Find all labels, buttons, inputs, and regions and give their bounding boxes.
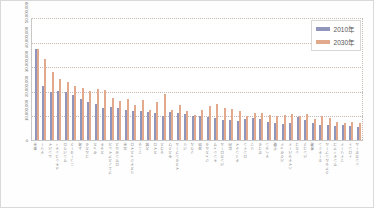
x-tick-label: ソウル xyxy=(190,142,198,206)
y-axis: 50,000,00040,000,00030,000,00020,000,000… xyxy=(1,11,31,146)
bar-group xyxy=(273,18,280,140)
bar-2030 xyxy=(246,116,248,140)
x-tick-label: ニューヨーク xyxy=(70,142,78,206)
x-tick-label: バンガロール xyxy=(220,142,228,206)
bar-2030 xyxy=(156,102,158,140)
chart-legend: 2010年2030年 xyxy=(311,20,361,51)
bar-2030 xyxy=(216,104,218,140)
x-tick-label: テヘラン xyxy=(265,142,273,206)
bar-2030 xyxy=(164,94,166,140)
y-tick-label: 0 xyxy=(26,138,28,143)
x-tick-label: ブエノスアイレス xyxy=(107,142,115,206)
bar-group xyxy=(198,18,205,140)
x-tick-label: カイロ xyxy=(152,142,160,206)
y-tick-label: 50,000,000 xyxy=(24,2,29,23)
x-tick-label: 東京 xyxy=(32,142,40,206)
bar-2030 xyxy=(44,59,46,140)
x-tick-label: ロンドン xyxy=(242,142,250,206)
bar-group xyxy=(138,18,145,140)
bar-2030 xyxy=(74,86,76,140)
x-tick-label: サンパウロ xyxy=(62,142,70,206)
bar-group xyxy=(93,18,100,140)
bar-2030 xyxy=(201,110,203,140)
bar-2030 xyxy=(269,115,271,140)
x-tick-label: ダッカ xyxy=(92,142,100,206)
x-tick-label: マニラ xyxy=(137,142,145,206)
bar-group xyxy=(250,18,257,140)
x-tick-label: 香港 xyxy=(310,142,318,206)
bar-2030 xyxy=(224,108,226,140)
bar-2030 xyxy=(299,116,301,140)
x-tick-label: シカゴ xyxy=(295,142,303,206)
bar-group xyxy=(160,18,167,140)
x-tick-label: パリ xyxy=(182,142,190,206)
bar-group xyxy=(115,18,122,140)
bar-group xyxy=(243,18,250,140)
x-tick-label: チェンナイ xyxy=(235,142,243,206)
bar-2030 xyxy=(329,118,331,140)
bar-2030 xyxy=(314,119,316,140)
legend-item[interactable]: 2030年 xyxy=(316,37,355,47)
bar-2030 xyxy=(359,123,361,140)
x-tick-label: ホーチミン xyxy=(317,142,325,206)
bar-group xyxy=(153,18,160,140)
x-tick-label: シンガポール xyxy=(355,142,363,206)
bar-group xyxy=(123,18,130,140)
chart-container: 50,000,00040,000,00030,000,00020,000,000… xyxy=(0,0,374,208)
bar-group xyxy=(228,18,235,140)
bar-group xyxy=(85,18,92,140)
x-axis-labels: 東京デリームンバイメキシコシティサンパウロニューヨーク上海コルカタダッカカラチブ… xyxy=(31,142,363,206)
bar-group xyxy=(63,18,70,140)
x-tick-label: ラゴス xyxy=(160,142,168,206)
bar-2030 xyxy=(142,100,144,140)
bar-2030 xyxy=(119,101,121,140)
bar-group xyxy=(100,18,107,140)
x-tick-label: メキシコシティ xyxy=(55,142,63,206)
bar-2030 xyxy=(231,109,233,140)
x-tick-label: 上海 xyxy=(77,142,85,206)
x-tick-label: ムンバイ xyxy=(47,142,55,206)
bar-group xyxy=(48,18,55,140)
bar-group xyxy=(190,18,197,140)
x-tick-label: リマ xyxy=(250,142,258,206)
x-tick-label: バグダッド xyxy=(280,142,288,206)
x-tick-label: モスクワ xyxy=(167,142,175,206)
bar-2030 xyxy=(321,116,323,140)
x-tick-label: デリー xyxy=(40,142,48,206)
bar-2030 xyxy=(179,105,181,140)
bar-2030 xyxy=(276,116,278,140)
bar-2030 xyxy=(52,72,54,140)
x-tick-label: 広州 xyxy=(227,142,235,206)
x-tick-label: トロント xyxy=(347,142,355,206)
x-tick-label: ジャカルタ xyxy=(205,142,213,206)
bar-2030 xyxy=(89,91,91,140)
x-tick-label: バンコク xyxy=(302,142,310,206)
bar-2030 xyxy=(59,79,61,140)
legend-item[interactable]: 2010年 xyxy=(316,24,355,34)
bar-2030 xyxy=(239,111,241,140)
bar-group xyxy=(168,18,175,140)
y-tick-label: 20,000,000 xyxy=(24,76,29,97)
x-tick-label: コルカタ xyxy=(85,142,93,206)
legend-label: 2030年 xyxy=(334,37,355,47)
bar-group xyxy=(265,18,272,140)
x-tick-label: 深圳 xyxy=(197,142,205,206)
x-tick-label: 大阪 xyxy=(145,142,153,206)
bar-group xyxy=(175,18,182,140)
bar-group xyxy=(33,18,40,140)
bar-2030 xyxy=(209,106,211,140)
x-tick-label: サンティアゴ xyxy=(332,142,340,206)
bar-2030 xyxy=(112,98,114,140)
legend-swatch xyxy=(316,27,330,31)
legend-label: 2010年 xyxy=(334,24,355,34)
x-tick-label: キンシャサ xyxy=(212,142,220,206)
bar-2030 xyxy=(37,49,39,141)
bar-group xyxy=(40,18,47,140)
bar-group xyxy=(205,18,212,140)
bar-group xyxy=(130,18,137,140)
bar-2030 xyxy=(351,122,353,140)
x-tick-label: 北京 xyxy=(122,142,130,206)
x-tick-label: リオデジャネイロ xyxy=(130,142,138,206)
bar-2030 xyxy=(171,110,173,140)
x-tick-label: マドリード xyxy=(340,142,348,206)
